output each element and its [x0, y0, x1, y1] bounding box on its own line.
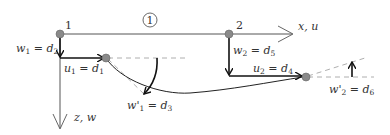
w1-label: w1 = d2: [16, 42, 58, 56]
u2-label: u2 = d4: [253, 62, 293, 76]
z-axis-label: z, w: [73, 111, 97, 124]
node-1: [56, 30, 64, 38]
element-number: 1: [147, 14, 154, 27]
beam-diagram: x, u z, w 1 1 2 w1 = d2 u1 = d1 w'1 = d3: [0, 0, 390, 135]
x-axis-label: x, u: [298, 20, 318, 33]
node-1-label: 1: [65, 19, 72, 32]
node-2-displaced: [302, 73, 310, 81]
w2-label: w2 = d5: [233, 44, 275, 58]
element-number-badge: 1: [143, 13, 157, 27]
w1-prime-label: w'1 = d3: [127, 99, 173, 113]
node-2: [225, 30, 233, 38]
node-1-displaced: [102, 54, 110, 62]
u1-label: u1 = d1: [64, 62, 104, 76]
node-2-label: 2: [236, 19, 243, 32]
w2-prime-label: w'2 = d6: [329, 83, 375, 97]
x-axis: [60, 26, 293, 42]
